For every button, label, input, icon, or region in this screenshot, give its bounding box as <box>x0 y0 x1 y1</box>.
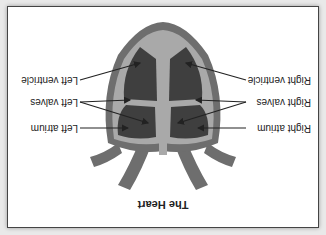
heart-diagram: The Heart <box>0 0 326 235</box>
left-atrium-chamber <box>170 105 208 139</box>
right-atrium-chamber <box>118 105 156 139</box>
label-right-ventricle: Right ventricle <box>248 74 311 86</box>
label-left-atrium: Left atrium <box>31 122 78 134</box>
label-left-valves: Left valves <box>30 96 78 108</box>
label-right-valves: Right valves <box>257 96 311 108</box>
septum <box>159 35 167 155</box>
label-right-atrium: Right atrium <box>257 122 311 134</box>
heart-illustration <box>0 0 326 235</box>
label-left-ventricle: Left ventricle <box>21 74 78 86</box>
